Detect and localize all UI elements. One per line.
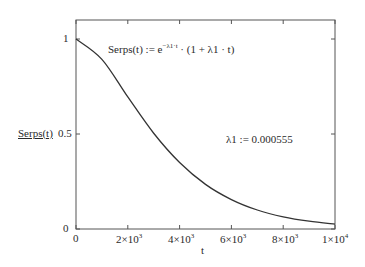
y-axis-label: Serps(t) [18,127,53,139]
x-tick-8000: 8×103 [272,232,298,245]
serps-curve [76,39,335,224]
x-tick-6000: 6×103 [220,232,246,245]
x-tick-4000: 4×103 [168,232,194,245]
formula-annotation: Serps(t) := e−λ1·t · (1 + λ1 · t) [108,42,234,55]
x-tick-10000: 1×104 [322,232,348,245]
lambda-annotation: λ1 := 0.000555 [226,133,293,145]
x-tick-2000: 2×103 [116,232,142,245]
y-tick-0: 0 [63,222,69,234]
y-tick-1: 1 [63,32,69,44]
x-tick-0: 0 [73,232,79,244]
x-axis-label: t [201,244,204,256]
y-tick-0-5: 0.5 [58,127,72,139]
chart-canvas [0,0,365,267]
